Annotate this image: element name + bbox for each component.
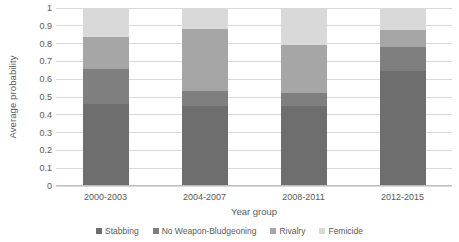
y-axis-tick-label: 0.4 bbox=[22, 110, 52, 119]
bar-segment[interactable] bbox=[380, 47, 426, 71]
legend-swatch-icon bbox=[270, 228, 276, 234]
legend-item[interactable]: Rivalry bbox=[270, 226, 305, 236]
y-axis-tick-label: 0.7 bbox=[22, 57, 52, 66]
y-axis-tick-label: 0.8 bbox=[22, 39, 52, 48]
bar-slot bbox=[254, 8, 353, 186]
x-axis-tick-labels: 2000-20032004-20072008-20112012-2015 bbox=[56, 190, 452, 204]
chart-legend: StabbingNo Weapon-BludgeoningRivalryFemi… bbox=[0, 226, 459, 236]
legend-label: Femicide bbox=[328, 226, 362, 236]
x-axis-tick-label: 2004-2007 bbox=[155, 190, 254, 204]
bar-segment[interactable] bbox=[281, 93, 327, 105]
legend-item[interactable]: No Weapon-Bludgeoning bbox=[153, 226, 257, 236]
stacked-bar[interactable] bbox=[281, 8, 327, 186]
bar-segment[interactable] bbox=[83, 69, 129, 104]
y-axis-tick-label: 0.6 bbox=[22, 75, 52, 84]
y-axis-tick-label: 0.9 bbox=[22, 21, 52, 30]
y-axis-tick-label: 0.5 bbox=[22, 93, 52, 102]
legend-swatch-icon bbox=[153, 228, 159, 234]
y-axis-tick-label: 0.1 bbox=[22, 164, 52, 173]
bar-segment[interactable] bbox=[380, 8, 426, 30]
legend-item[interactable]: Femicide bbox=[319, 226, 362, 236]
bar-segment[interactable] bbox=[380, 30, 426, 47]
bar-segment[interactable] bbox=[83, 37, 129, 69]
bar-slot bbox=[155, 8, 254, 186]
stacked-bar[interactable] bbox=[182, 8, 228, 186]
x-axis-line bbox=[56, 185, 452, 186]
bar-segment[interactable] bbox=[281, 45, 327, 93]
y-axis-title: Average probability bbox=[6, 4, 20, 190]
legend-swatch-icon bbox=[319, 228, 325, 234]
x-axis-tick-label: 2000-2003 bbox=[56, 190, 155, 204]
bar-segment[interactable] bbox=[380, 71, 426, 186]
bar-slot bbox=[353, 8, 452, 186]
legend-swatch-icon bbox=[96, 228, 102, 234]
x-axis-tick-label: 2008-2011 bbox=[254, 190, 353, 204]
x-axis-title: Year group bbox=[56, 206, 452, 218]
legend-label: No Weapon-Bludgeoning bbox=[162, 226, 257, 236]
stacked-bar-chart: Average probability 10.90.80.70.60.50.40… bbox=[0, 0, 459, 242]
bar-segment[interactable] bbox=[281, 106, 327, 186]
legend-label: Stabbing bbox=[105, 226, 139, 236]
plot-area bbox=[56, 8, 452, 186]
y-axis-tick-label: 1 bbox=[22, 4, 52, 13]
x-axis-tick-label: 2012-2015 bbox=[353, 190, 452, 204]
y-axis-tick-labels: 10.90.80.70.60.50.40.30.20.10 bbox=[22, 8, 52, 186]
bar-segment[interactable] bbox=[83, 104, 129, 186]
bar-segment[interactable] bbox=[281, 8, 327, 45]
bar-slot bbox=[56, 8, 155, 186]
legend-label: Rivalry bbox=[279, 226, 305, 236]
y-axis-tick-label: 0 bbox=[22, 182, 52, 191]
stacked-bar[interactable] bbox=[380, 8, 426, 186]
bar-segment[interactable] bbox=[182, 106, 228, 186]
legend-item[interactable]: Stabbing bbox=[96, 226, 139, 236]
y-axis-tick-label: 0.2 bbox=[22, 146, 52, 155]
y-axis-tick-label: 0.3 bbox=[22, 128, 52, 137]
bar-segment[interactable] bbox=[182, 8, 228, 29]
bar-group bbox=[56, 8, 452, 186]
stacked-bar[interactable] bbox=[83, 8, 129, 186]
bar-segment[interactable] bbox=[182, 29, 228, 90]
bar-segment[interactable] bbox=[182, 91, 228, 106]
bar-segment[interactable] bbox=[83, 8, 129, 37]
